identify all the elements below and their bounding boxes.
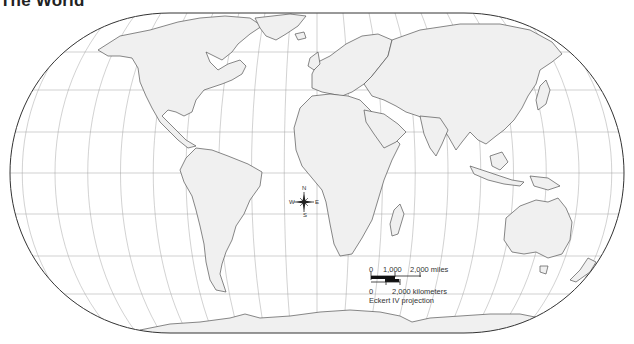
compass-east-label: E xyxy=(315,199,319,205)
scale-miles-end: 2,000 miles xyxy=(410,266,448,274)
world-map xyxy=(0,0,634,344)
projection-label: Eckert IV projection xyxy=(369,297,434,305)
compass-north-label: N xyxy=(302,185,306,191)
scale-miles-zero: 0 xyxy=(369,266,373,274)
map-body xyxy=(0,0,634,344)
compass-south-label: S xyxy=(303,212,307,218)
scale-km-end: 2,000 kilometers xyxy=(392,288,447,296)
compass-west-label: W xyxy=(289,199,295,205)
scale-km-zero: 0 xyxy=(369,288,373,296)
scale-miles-mid: 1,000 xyxy=(383,266,402,274)
